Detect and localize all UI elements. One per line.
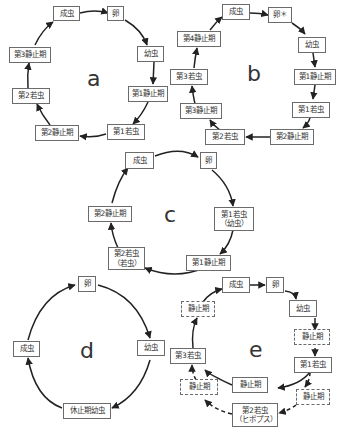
node-d-adult: 成虫 [13, 341, 40, 357]
node-e-nymph1: 第1若虫 [294, 357, 332, 373]
arrow-a-8 [35, 22, 53, 45]
node-b-rest4: 第4静止期 [177, 31, 221, 47]
arrow-d-1 [98, 285, 150, 338]
node-b-rest3: 第3静止期 [180, 103, 222, 119]
arrow-b-9 [194, 48, 197, 68]
node-e-egg: 卵 [266, 277, 284, 293]
node-d-dormant-larva: 休止期幼虫 [63, 403, 111, 419]
node-b-nymph3: 第3若虫 [170, 69, 208, 85]
node-e-rest-left: 静止期 [180, 379, 218, 395]
arrow-a-3 [153, 62, 154, 84]
arrow-b-5 [303, 118, 310, 128]
node-a-rest1: 第1静止期 [128, 86, 168, 102]
node-a-nymph1: 第1若虫 [107, 124, 145, 140]
arrow-e-2 [285, 291, 296, 299]
node-e-larva: 幼虫 [289, 300, 317, 317]
arrow-a-1 [80, 11, 108, 13]
diagram-e-label: e [249, 339, 263, 361]
diagram-a-label: a [87, 68, 100, 90]
node-e-rest-after-nymph1: 静止期 [296, 389, 330, 405]
node-e-adult: 成虫 [222, 277, 250, 293]
node-a-egg: 卵 [107, 6, 124, 21]
arrow-b-10 [210, 17, 222, 30]
node-c-nymph2: 第2若虫 （若虫） [108, 247, 145, 270]
node-e-rest-after-larva: 静止期 [294, 329, 330, 345]
arrow-c-3 [220, 230, 233, 254]
arrow-b-4 [313, 85, 315, 99]
node-e-rest-middle: 静止期 [232, 377, 268, 393]
node-b-egg: 卵＊ [268, 7, 292, 23]
arrow-a-4 [133, 102, 148, 124]
arrow-a-5 [80, 134, 106, 137]
arrow-e-7 [193, 318, 198, 348]
node-b-larva: 幼虫 [298, 37, 326, 53]
arrow-a-7 [28, 63, 29, 88]
node-e-nymph3: 第3若虫 [170, 348, 206, 364]
arrow-a-6 [37, 104, 50, 125]
node-c-rest1: 第1静止期 [186, 255, 231, 271]
diagram-c-label: c [164, 204, 176, 226]
node-b-nymph1: 第1若虫 [292, 102, 330, 118]
node-c-egg: 卵 [200, 152, 217, 169]
node-d-larva: 幼虫 [137, 340, 165, 356]
arrow-b-3 [313, 53, 315, 67]
diagram-b-label: b [247, 63, 261, 85]
arrow-b-2 [292, 23, 305, 34]
node-c-adult: 成虫 [125, 152, 154, 169]
node-b-rest1: 第1静止期 [294, 69, 336, 85]
arrow-b-8 [192, 86, 195, 104]
node-e-hypopus: 第2若虫 （ヒポプス） [232, 403, 278, 427]
diagram-d-label: d [80, 340, 94, 362]
node-c-rest2: 第2静止期 [88, 206, 132, 222]
node-b-nymph2: 第2若虫 [205, 129, 245, 145]
node-a-nymph2: 第2若虫 [12, 88, 50, 104]
node-a-rest2: 第2静止期 [35, 125, 79, 141]
arrow-a-2 [125, 20, 147, 45]
node-e-rest-top-left: 静止期 [181, 301, 215, 317]
node-c-nymph1: 第1若虫 （幼虫） [214, 207, 254, 231]
node-a-adult: 成虫 [53, 6, 80, 21]
node-d-egg: 卵 [78, 276, 96, 292]
node-a-larva: 幼虫 [137, 46, 164, 62]
arrow-c-1 [155, 151, 198, 157]
arrow-e-dashed-3 [205, 400, 232, 414]
arrow-c-6 [112, 168, 128, 203]
arrow-c-5 [111, 223, 118, 248]
arrow-d-2 [112, 360, 150, 408]
node-b-adult: 成虫 [222, 4, 250, 20]
node-a-rest3: 第3静止期 [9, 47, 51, 63]
arrow-c-2 [212, 170, 233, 206]
arrow-d-4 [28, 285, 75, 340]
arrow-b-1 [250, 13, 268, 15]
arrow-d-3 [28, 358, 62, 408]
arrow-e-dashed-4 [192, 365, 196, 380]
node-b-rest2: 第2静止期 [270, 129, 314, 145]
arrow-e-dashed-2 [279, 405, 296, 413]
